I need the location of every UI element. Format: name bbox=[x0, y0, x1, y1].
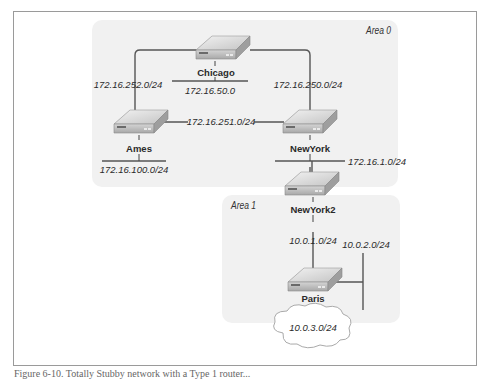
router-newyork-label: NewYork bbox=[290, 143, 331, 154]
router-ames[interactable]: Ames bbox=[114, 110, 168, 161]
router-ames-label: Ames bbox=[126, 143, 152, 154]
router-chicago[interactable]: Chicago bbox=[196, 36, 250, 81]
router-newyork[interactable]: NewYork bbox=[283, 110, 337, 161]
net-label-ames-chicago: 172.16.252.0/24 bbox=[94, 79, 163, 90]
cloud-icon: 10.0.3.0/24 bbox=[274, 303, 351, 348]
net-label-chicago-newyork: 172.16.250.0/24 bbox=[274, 79, 343, 90]
net-label-paris-lan: 10.0.2.0/24 bbox=[342, 239, 390, 250]
net-label-newyork-lan: 172.16.1.0/24 bbox=[348, 156, 406, 167]
router-chicago-label: Chicago bbox=[197, 67, 235, 78]
net-label-newyork2-paris: 10.0.1.0/24 bbox=[289, 235, 337, 246]
figure-caption: Figure 6-10. Totally Stubby network with… bbox=[14, 368, 250, 379]
net-label-ames-newyork: 172.16.251.0/24 bbox=[187, 116, 256, 127]
net-label-ames-lan: 172.16.100.0/24 bbox=[100, 164, 169, 175]
net-label-paris-cloud: 10.0.3.0/24 bbox=[289, 322, 337, 333]
router-newyork2-label: NewYork2 bbox=[290, 204, 335, 215]
router-newyork2[interactable]: NewYork2 bbox=[285, 172, 339, 222]
router-paris[interactable]: Paris bbox=[288, 268, 342, 304]
net-label-chicago-lan: 172.16.50.0 bbox=[185, 85, 236, 96]
router-paris-label: Paris bbox=[301, 293, 324, 304]
